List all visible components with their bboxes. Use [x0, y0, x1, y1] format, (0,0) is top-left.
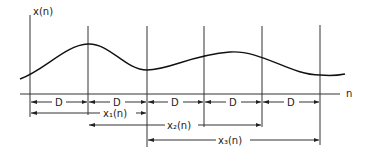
- window-x2: x₂(n): [89, 120, 261, 131]
- segment-row: D D D D D: [31, 97, 319, 108]
- segment-label: D: [55, 97, 63, 108]
- segment-label: D: [229, 97, 237, 108]
- signal-curve: [20, 44, 345, 79]
- window-label: x₁(n): [103, 108, 127, 119]
- window-label: x₃(n): [218, 135, 242, 146]
- segment-label: D: [171, 97, 179, 108]
- segment-label: D: [113, 97, 121, 108]
- overlapping-windows-diagram: D D D D D x₁(n) x₂(n) x₃(n): [0, 0, 367, 159]
- y-axis-label: x(n): [33, 6, 53, 17]
- segment-label: D: [287, 97, 295, 108]
- x-axis-label: n: [346, 88, 352, 99]
- window-x3: x₃(n): [148, 135, 319, 146]
- window-label: x₂(n): [167, 120, 191, 131]
